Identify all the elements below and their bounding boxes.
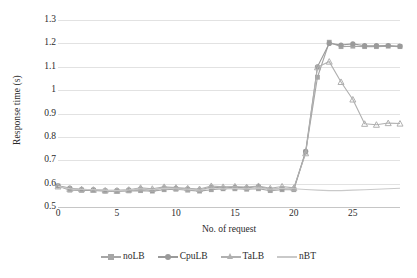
legend-item-nolb[interactable]: noLB <box>101 252 145 262</box>
y-tick-label: 0.5 <box>20 202 56 212</box>
x-tick-label: 5 <box>115 209 120 219</box>
legend-label: nBT <box>299 252 316 262</box>
y-tick-label: 1.1 <box>20 62 56 72</box>
x-tick-label: 10 <box>171 209 181 219</box>
legend-marker-circle-icon <box>158 252 178 261</box>
response-time-chart: Response time (s) 0.50.60.70.80.911.11.2… <box>0 0 417 278</box>
legend-item-nbt[interactable]: nBT <box>277 252 316 262</box>
y-tick-label: 0.6 <box>20 179 56 189</box>
y-tick-label: 0.9 <box>20 109 56 119</box>
y-tick-label: 1.3 <box>20 15 56 25</box>
x-tick-label: 20 <box>289 209 299 219</box>
y-tick-label: 0.7 <box>20 156 56 166</box>
legend-item-talb[interactable]: TaLB <box>221 252 265 262</box>
legend-label: TaLB <box>243 252 265 262</box>
y-tick-label: 1 <box>20 85 56 95</box>
chart-legend: noLBCpuLBTaLBnBT <box>0 252 417 262</box>
y-tick-label: 1.2 <box>20 39 56 49</box>
legend-marker-square-icon <box>101 252 121 261</box>
legend-item-cpulb[interactable]: CpuLB <box>158 252 208 262</box>
y-tick-label: 0.8 <box>20 132 56 142</box>
x-tick-label: 25 <box>348 209 358 219</box>
x-axis-title: No. of request <box>58 224 400 234</box>
legend-marker-triangle-icon <box>221 252 241 261</box>
legend-marker-none-icon <box>277 252 297 261</box>
x-tick-label: 0 <box>56 209 61 219</box>
legend-label: noLB <box>123 252 145 262</box>
y-axis-ticks: 0.50.60.70.80.911.11.21.3 <box>58 20 400 207</box>
x-tick-label: 15 <box>230 209 240 219</box>
legend-label: CpuLB <box>180 252 208 262</box>
